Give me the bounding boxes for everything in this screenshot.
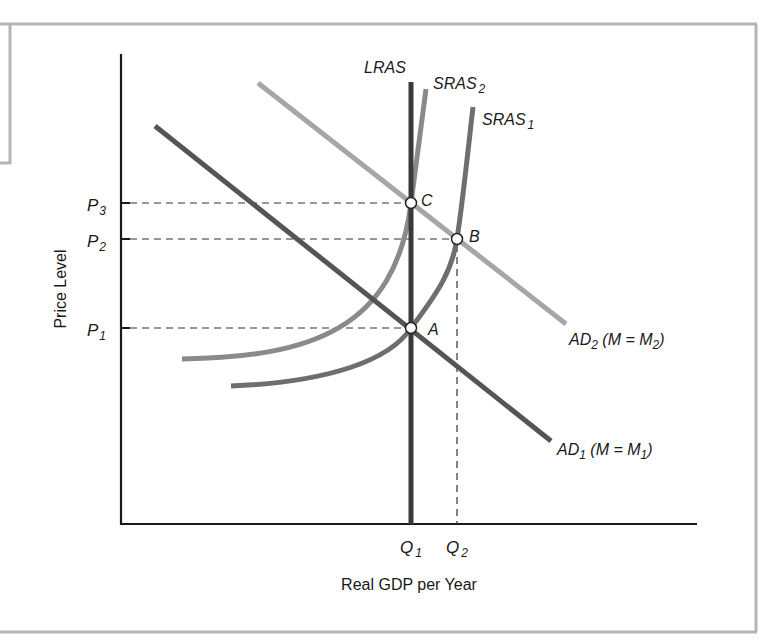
point-c — [406, 198, 417, 209]
ad2-label: AD2 (M = M2) — [568, 331, 665, 352]
x-axis-title: Real GDP per Year — [341, 576, 477, 593]
sras2-curve — [182, 89, 426, 359]
point-b — [452, 234, 463, 245]
guide-lines — [130, 203, 457, 524]
x-tick-q1: Q1 — [400, 538, 422, 560]
sras1-curve — [231, 107, 473, 386]
point-a-label: A — [427, 321, 439, 338]
point-c-label: C — [421, 192, 433, 209]
lras-label: LRAS — [364, 59, 406, 76]
ad-as-diagram: C B A LRAS SRAS2 SRAS1 AD2 (M = M2) AD1 … — [0, 0, 777, 642]
ad1-curve — [155, 126, 551, 441]
sras1-label: SRAS1 — [482, 111, 534, 132]
sras2-label: SRAS2 — [433, 75, 486, 96]
x-tick-q2: Q2 — [446, 538, 468, 560]
y-axis-title: Price Level — [52, 249, 69, 328]
y-tick-p1: P1 — [87, 321, 106, 343]
figure-frame — [0, 24, 757, 632]
ad1-label: AD1 (M = M1) — [556, 441, 653, 462]
y-tick-p2: P2 — [87, 232, 106, 254]
point-a — [406, 323, 417, 334]
point-b-label: B — [469, 228, 480, 245]
y-tick-p3: P3 — [87, 196, 106, 218]
